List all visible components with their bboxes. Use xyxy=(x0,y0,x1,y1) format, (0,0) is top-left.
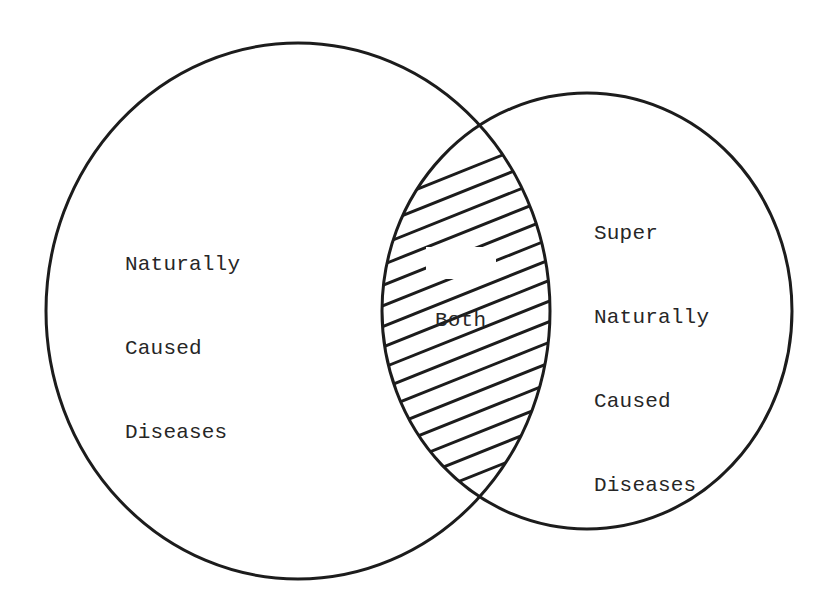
label-line: Caused xyxy=(594,388,709,416)
label-supernaturally-caused-diseases: Super Naturally Caused Diseases xyxy=(594,164,709,528)
label-naturally-caused-diseases: Naturally Caused Diseases xyxy=(125,195,240,475)
hatch-line xyxy=(360,412,580,500)
label-line: Both xyxy=(435,307,486,335)
label-line: Diseases xyxy=(594,472,709,500)
label-both: Both xyxy=(435,251,486,363)
hatch-line xyxy=(360,124,580,212)
hatch-line xyxy=(360,392,580,480)
label-line: Caused xyxy=(125,335,240,363)
label-line: Naturally xyxy=(125,251,240,279)
label-line: Super xyxy=(594,220,709,248)
label-line: Diseases xyxy=(125,419,240,447)
hatch-line xyxy=(360,145,580,233)
label-line: Naturally xyxy=(594,304,709,332)
